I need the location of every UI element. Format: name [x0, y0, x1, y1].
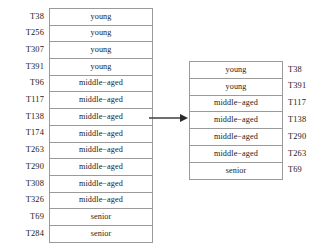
- row-category-cell: young: [50, 59, 153, 76]
- row-category-cell: middle−aged: [50, 92, 153, 109]
- transformation-arrow: [149, 111, 189, 125]
- row-id-label: T326: [0, 192, 50, 209]
- row-category-cell: middle−aged: [50, 159, 153, 176]
- table-row: T38 young: [0, 9, 153, 26]
- table-row: T284 senior: [0, 225, 153, 242]
- row-id-label: T117: [0, 92, 50, 109]
- row-category-cell: middle−aged: [190, 112, 283, 129]
- row-category-cell: middle−aged: [50, 142, 153, 159]
- row-category-cell: middle−aged: [50, 75, 153, 92]
- table-row: T69 senior: [0, 209, 153, 226]
- row-id-label: T69: [0, 209, 50, 226]
- sampled-subset-table-body: young T38 young T391 middle−aged T117 mi…: [190, 62, 329, 180]
- sampled-subset-table: young T38 young T391 middle−aged T117 mi…: [189, 61, 329, 180]
- row-id-label: T256: [0, 25, 50, 42]
- row-id-label: T138: [0, 109, 50, 126]
- table-row: senior T69: [190, 162, 329, 179]
- row-id-label: T38: [283, 62, 329, 79]
- row-category-cell: senior: [190, 162, 283, 179]
- row-id-label: T308: [0, 175, 50, 192]
- table-row: young T38: [190, 62, 329, 79]
- table-row: T290 middle−aged: [0, 159, 153, 176]
- table-row: middle−aged T290: [190, 129, 329, 146]
- row-category-cell: middle−aged: [190, 145, 283, 162]
- table-row: middle−aged T263: [190, 145, 329, 162]
- row-id-label: T69: [283, 162, 329, 179]
- row-id-label: T174: [0, 125, 50, 142]
- row-id-label: T138: [283, 112, 329, 129]
- table-row: middle−aged T138: [190, 112, 329, 129]
- row-id-label: T96: [0, 75, 50, 92]
- row-id-label: T391: [283, 78, 329, 95]
- row-category-cell: young: [190, 62, 283, 79]
- table-row: T174 middle−aged: [0, 125, 153, 142]
- table-row: young T391: [190, 78, 329, 95]
- table-row: T391 young: [0, 59, 153, 76]
- row-id-label: T307: [0, 42, 50, 59]
- table-row: T256 young: [0, 25, 153, 42]
- row-id-label: T391: [0, 59, 50, 76]
- row-id-label: T284: [0, 225, 50, 242]
- row-category-cell: young: [50, 9, 153, 26]
- table-row: T326 middle−aged: [0, 192, 153, 209]
- row-category-cell: middle−aged: [190, 129, 283, 146]
- table-row: middle−aged T117: [190, 95, 329, 112]
- full-dataset-table-body: T38 young T256 young T307 young T391 you…: [0, 9, 153, 243]
- table-row: T263 middle−aged: [0, 142, 153, 159]
- row-id-label: T117: [283, 95, 329, 112]
- row-category-cell: senior: [50, 209, 153, 226]
- table-row: T308 middle−aged: [0, 175, 153, 192]
- row-id-label: T290: [283, 129, 329, 146]
- row-id-label: T263: [0, 142, 50, 159]
- row-id-label: T263: [283, 145, 329, 162]
- row-category-cell: middle−aged: [190, 95, 283, 112]
- table-row: T117 middle−aged: [0, 92, 153, 109]
- arrow-right-icon: [149, 111, 189, 125]
- table-row: T307 young: [0, 42, 153, 59]
- row-id-label: T290: [0, 159, 50, 176]
- row-category-cell: middle−aged: [50, 125, 153, 142]
- row-category-cell: middle−aged: [50, 109, 153, 126]
- row-category-cell: middle−aged: [50, 175, 153, 192]
- row-category-cell: young: [50, 25, 153, 42]
- row-category-cell: young: [190, 78, 283, 95]
- table-row: T138 middle−aged: [0, 109, 153, 126]
- table-row: T96 middle−aged: [0, 75, 153, 92]
- row-id-label: T38: [0, 9, 50, 26]
- row-category-cell: middle−aged: [50, 192, 153, 209]
- full-dataset-table: T38 young T256 young T307 young T391 you…: [0, 8, 153, 243]
- row-category-cell: senior: [50, 225, 153, 242]
- row-category-cell: young: [50, 42, 153, 59]
